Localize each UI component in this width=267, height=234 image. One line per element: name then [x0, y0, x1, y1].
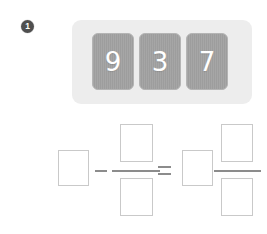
fraction-bar-left — [112, 170, 160, 172]
answer-box-numerator-right[interactable] — [221, 124, 253, 162]
equals-sign-icon-bottom — [158, 173, 171, 175]
digit-tile-9[interactable]: 9 — [92, 33, 134, 90]
answer-box-numerator-left[interactable] — [120, 124, 153, 162]
minus-sign-icon — [95, 170, 107, 172]
digit-tile-3[interactable]: 3 — [139, 33, 181, 90]
digit-tile-7[interactable]: 7 — [186, 33, 228, 90]
equation-area — [0, 118, 267, 223]
answer-box-denominator-right[interactable] — [221, 178, 253, 216]
problem-number-badge: 1 — [21, 20, 34, 33]
answer-box-minuend[interactable] — [58, 150, 89, 186]
digit-tile-row: 9 3 7 — [92, 33, 228, 90]
fraction-bar-right — [214, 170, 261, 172]
equals-sign-icon-top — [158, 166, 171, 168]
answer-box-denominator-left[interactable] — [120, 178, 153, 216]
answer-box-whole-right[interactable] — [182, 150, 213, 186]
digit-tile-panel: 9 3 7 — [72, 20, 252, 104]
